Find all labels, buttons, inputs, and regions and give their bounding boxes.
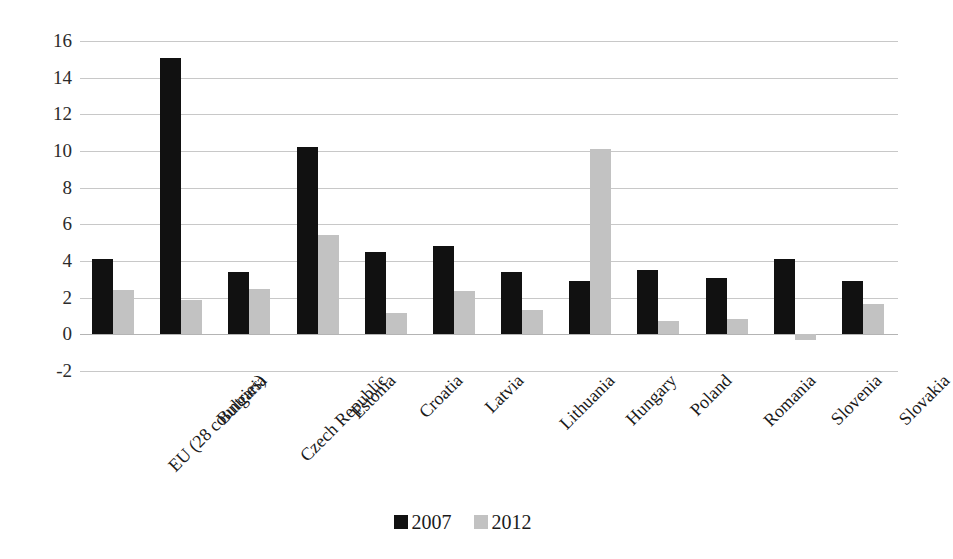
legend-item-2007[interactable]: 2007: [394, 512, 452, 532]
bar-2007: [92, 259, 113, 334]
plot-area: [80, 41, 898, 371]
legend-label: 2012: [492, 512, 532, 532]
bar-2012: [386, 313, 407, 334]
bar-2012: [795, 334, 816, 340]
x-tick-label: Slovakia: [895, 371, 952, 428]
bar-2012: [863, 304, 884, 334]
y-tick-label-6: 6: [26, 214, 72, 233]
legend-item-2012[interactable]: 2012: [474, 512, 532, 532]
x-tick-label-text: Poland: [687, 371, 735, 419]
bar-group: [774, 41, 816, 371]
y-tick-label-2: 2: [26, 288, 72, 307]
x-axis-category-labels: EU (28 countries)BulgariaCzech RepublicE…: [80, 371, 898, 501]
bar-2012: [249, 289, 270, 335]
y-tick-label-8: 8: [26, 178, 72, 197]
y-tick-label-14: 14: [26, 68, 72, 87]
x-tick-label-text: Latvia: [481, 371, 526, 416]
x-tick-label-text: Bulgaria: [213, 371, 270, 428]
bar-group: [160, 41, 202, 371]
bar-group: [501, 41, 543, 371]
x-tick-label: Romania: [760, 371, 819, 430]
bar-group: [569, 41, 611, 371]
bar-2007: [433, 246, 454, 334]
y-tick-label--2: -2: [26, 361, 72, 380]
bar-2012: [590, 149, 611, 334]
bar-2012: [522, 310, 543, 335]
bar-2012: [181, 300, 202, 334]
bar-group: [637, 41, 679, 371]
bar-2007: [228, 272, 249, 334]
bar-2012: [113, 290, 134, 334]
x-tick-label-text: Hungary: [623, 371, 680, 428]
bar-2007: [774, 259, 795, 334]
bar-2007: [706, 278, 727, 335]
x-tick-label: Poland: [687, 371, 735, 419]
bar-2012: [727, 319, 748, 335]
x-tick-label: Croatia: [415, 371, 465, 421]
x-tick-label: Lithuania: [556, 371, 618, 433]
y-tick-label-0: 0: [26, 324, 72, 343]
bar-2007: [297, 147, 318, 334]
x-tick-label: Bulgaria: [213, 371, 270, 428]
x-tick-label: Latvia: [481, 371, 526, 416]
bar-2012: [658, 321, 679, 335]
x-tick-label-text: Slovenia: [827, 371, 884, 428]
y-axis: 1614121086420-2: [20, 41, 72, 371]
x-tick-label: Slovenia: [827, 371, 884, 428]
legend: 20072012: [0, 512, 925, 532]
x-tick-label-text: Lithuania: [556, 371, 618, 433]
bar-group: [365, 41, 407, 371]
bar-2007: [501, 272, 522, 334]
bar-2007: [637, 270, 658, 334]
y-tick-label-10: 10: [26, 141, 72, 160]
bar-2012: [454, 291, 475, 334]
x-tick-label-text: Romania: [760, 371, 819, 430]
y-tick-label-16: 16: [26, 31, 72, 50]
bar-2007: [365, 252, 386, 335]
bar-group: [433, 41, 475, 371]
bar-2007: [160, 58, 181, 335]
bar-group: [92, 41, 134, 371]
bar-2012: [318, 235, 339, 334]
bar-group: [842, 41, 884, 371]
legend-swatch-icon: [394, 515, 408, 529]
x-tick-label: Hungary: [623, 371, 680, 428]
bar-group: [706, 41, 748, 371]
bar-group: [228, 41, 270, 371]
x-tick-label-text: Slovakia: [895, 371, 952, 428]
legend-swatch-icon: [474, 515, 488, 529]
y-tick-label-12: 12: [26, 104, 72, 123]
bar-2007: [569, 281, 590, 334]
bar-2007: [842, 281, 863, 334]
y-tick-label-4: 4: [26, 251, 72, 270]
bar-group: [297, 41, 339, 371]
x-tick-label-text: Croatia: [415, 371, 465, 421]
legend-label: 2007: [412, 512, 452, 532]
